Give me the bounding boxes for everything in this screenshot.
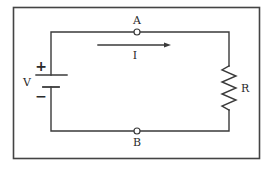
current-label: I bbox=[133, 49, 137, 62]
current-arrow-head-icon bbox=[164, 43, 171, 48]
node-b-label: B bbox=[133, 136, 141, 149]
voltage-label: V bbox=[22, 76, 32, 89]
node-a-label: A bbox=[132, 14, 142, 27]
positive-terminal-sign: + bbox=[35, 58, 47, 74]
negative-terminal-sign: − bbox=[35, 88, 47, 104]
top-wire-right bbox=[140, 32, 229, 66]
node-b-terminal-icon bbox=[134, 128, 140, 134]
top-wire-left bbox=[51, 32, 134, 75]
resistor-icon bbox=[222, 66, 236, 110]
resistor-label: R bbox=[241, 82, 250, 95]
bottom-wire-right bbox=[140, 110, 229, 131]
circuit-diagram: A B I R V + − bbox=[0, 0, 274, 169]
node-a-terminal-icon bbox=[134, 29, 140, 35]
bottom-wire-left bbox=[51, 87, 134, 131]
